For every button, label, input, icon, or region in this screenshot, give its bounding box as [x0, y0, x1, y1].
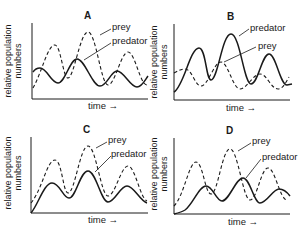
prey-label: prey: [258, 40, 277, 51]
panel-title: D: [226, 125, 233, 136]
prey-label: prey: [108, 134, 127, 145]
panel-title: A: [84, 10, 91, 21]
x-axis-label: time →: [88, 214, 118, 225]
y-axis-label-line2: numbers: [159, 156, 169, 192]
predator-leader: [95, 156, 111, 172]
y-axis-label: relative population: [149, 137, 159, 210]
x-axis-label: time →: [226, 102, 256, 113]
prey-label: prey: [252, 135, 271, 146]
predator-leader: [246, 159, 261, 178]
predator-label: predator: [112, 35, 147, 46]
predator-line: [174, 178, 290, 214]
panel-c: C relative population numbers prey preda…: [3, 124, 148, 225]
panel-b: B relative population numbers predator p…: [149, 11, 292, 113]
predator-line: [31, 171, 147, 213]
axes: [174, 24, 290, 100]
panel-title: B: [227, 11, 234, 22]
predator-leader: [239, 29, 249, 36]
predator-line: [33, 59, 148, 87]
y-axis-label-line2: numbers: [13, 43, 23, 79]
prey-line: [174, 62, 289, 89]
predator-leader: [84, 43, 111, 60]
y-axis-label-line2: numbers: [13, 155, 23, 191]
predator-prey-figure: A relative population numbers prey preda…: [0, 0, 308, 231]
panel-d: D relative population numbers prey preda…: [149, 125, 297, 227]
y-axis-label: relative population: [3, 24, 13, 97]
predator-label: predator: [262, 151, 297, 162]
prey-label: prey: [112, 21, 131, 32]
panel-title: C: [83, 124, 90, 135]
predator-label: predator: [111, 148, 146, 159]
x-axis-label: time →: [228, 216, 258, 227]
predator-label: predator: [250, 22, 285, 33]
prey-leader: [96, 142, 107, 148]
prey-leader: [238, 143, 251, 151]
x-axis-label: time →: [88, 100, 118, 111]
y-axis-label: relative population: [149, 25, 159, 98]
y-axis-label-line2: numbers: [159, 44, 169, 80]
prey-leader: [100, 29, 111, 35]
y-axis-label: relative population: [3, 136, 13, 209]
panel-a: A relative population numbers prey preda…: [3, 10, 148, 111]
